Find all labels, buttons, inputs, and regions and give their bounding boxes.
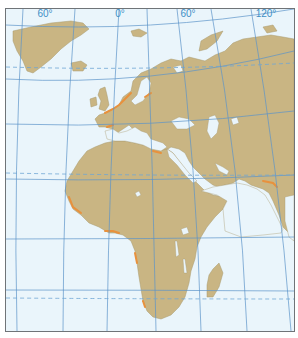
longitude-label-60e: 60° bbox=[180, 8, 195, 19]
ireland bbox=[90, 97, 97, 107]
novaya-zemlya bbox=[199, 31, 223, 51]
great-britain bbox=[98, 87, 109, 111]
madagascar bbox=[207, 263, 223, 297]
map-frame bbox=[5, 8, 295, 332]
iceland bbox=[71, 61, 87, 71]
land-masses bbox=[13, 21, 294, 319]
svalbard bbox=[131, 29, 147, 37]
longitude-label-120e: 120° bbox=[256, 8, 277, 19]
bay-of-bengal bbox=[285, 195, 294, 241]
arctic-islands bbox=[263, 25, 277, 33]
longitude-label-0: 0° bbox=[115, 8, 125, 19]
map-canvas bbox=[6, 9, 294, 331]
longitude-label-60w: 60° bbox=[37, 8, 52, 19]
